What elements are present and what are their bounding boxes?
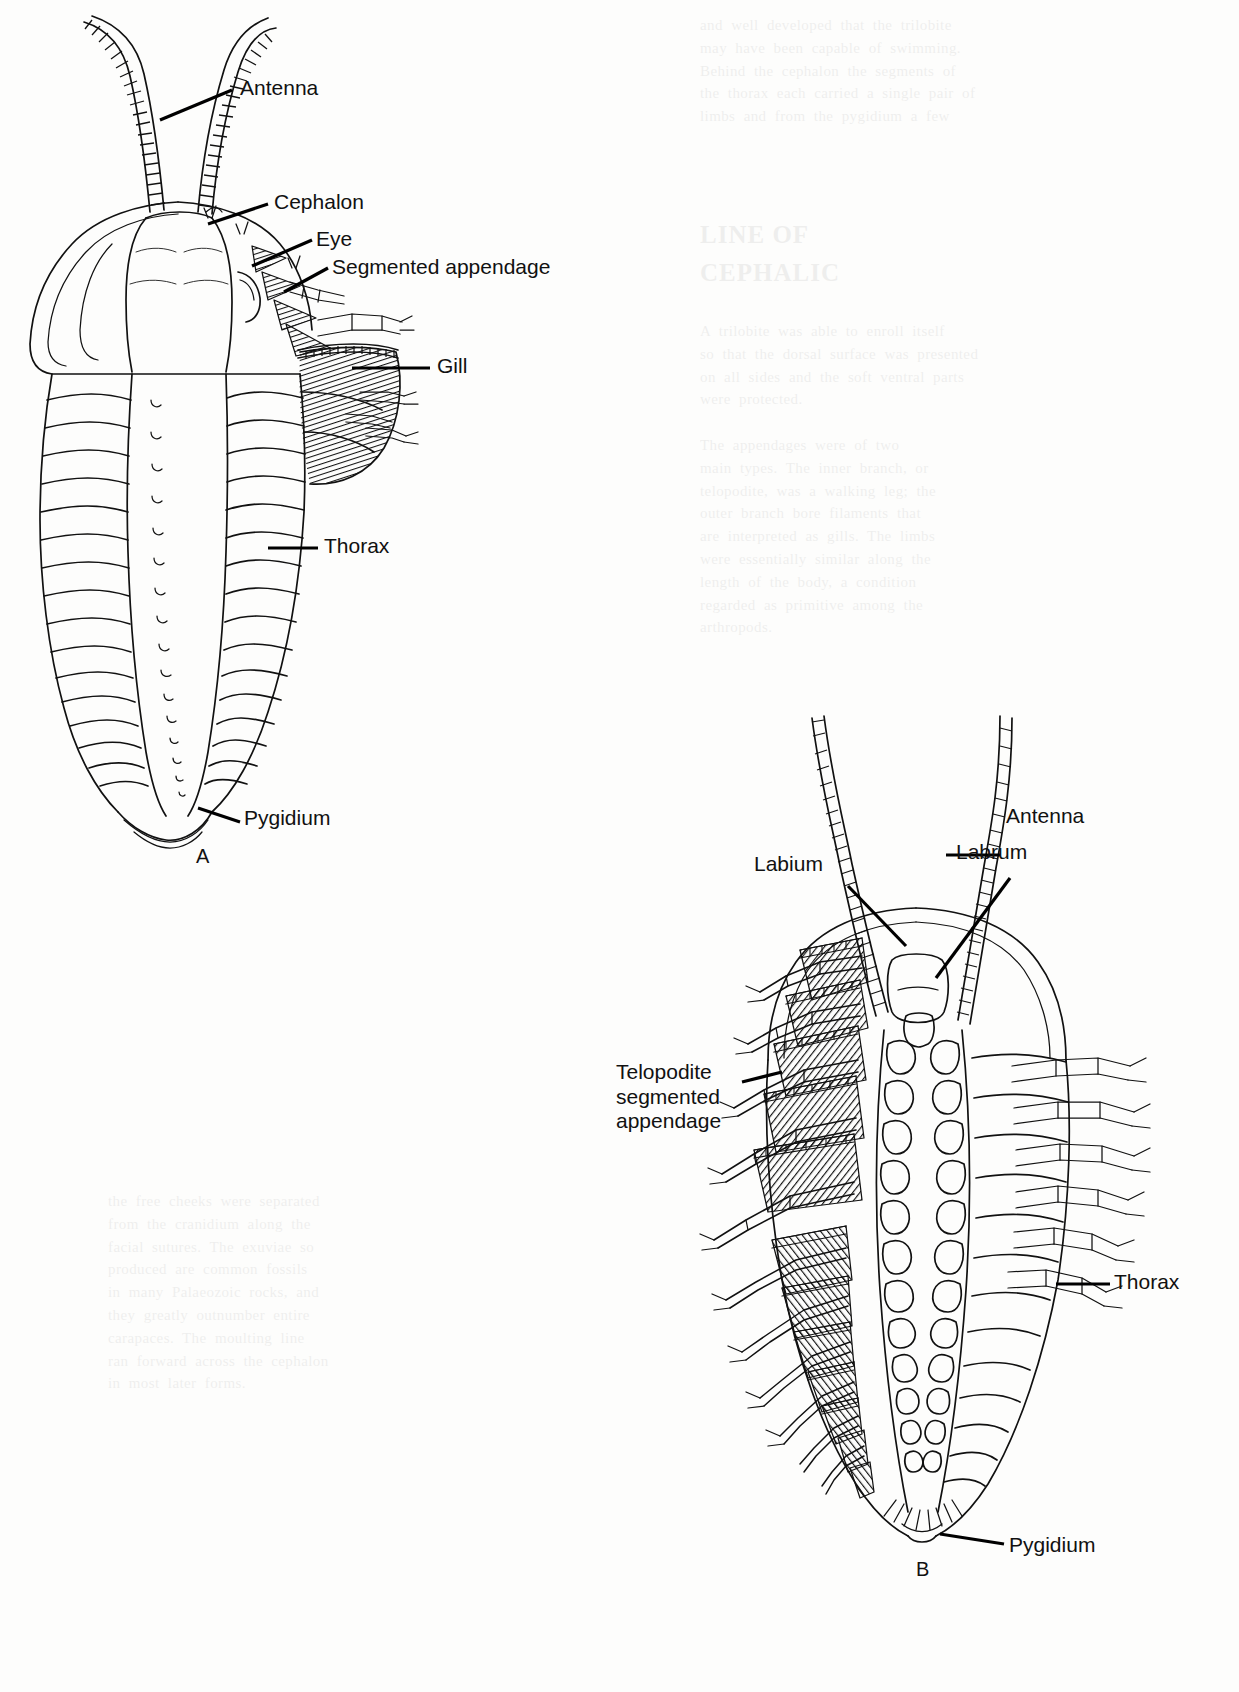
label-antenna-a: Antenna [240,76,318,101]
gill-a [298,314,418,484]
figure-letter-a: A [196,845,209,868]
coxae-column-b [881,1041,966,1472]
labium-metastoma-b [904,1013,934,1047]
figure-letter-b: B [916,1558,929,1581]
label-labrum-b: Labrum [956,840,1027,865]
antenna-right-a [198,18,276,214]
label-antenna-b: Antenna [1006,804,1084,829]
antenna-left-a [84,16,165,212]
label-pygidium-b: Pygidium [1009,1533,1095,1558]
figure-artwork [0,0,1239,1692]
panel-b-artwork [700,716,1150,1544]
label-gill-a: Gill [437,354,467,379]
label-pygidium-a: Pygidium [244,806,330,831]
body-right-b [936,1060,1069,1536]
label-labium-b: Labium [754,852,823,877]
cephalon-outline-a [30,202,300,374]
label-thorax-a: Thorax [324,534,389,559]
glabella-a [126,218,146,372]
pygidium-fringe-b [884,1500,962,1530]
label-telopodite-b: Telopodite segmented appendage [616,1060,721,1134]
antenna-right-b [957,716,1012,1024]
label-eye-a: Eye [316,227,352,252]
axial-rings-a [151,400,185,796]
thorax-segments-a [40,374,305,816]
pygidium-b [908,1536,936,1542]
panel-a-artwork [30,16,430,848]
label-segmented-appendage-a: Segmented appendage [332,255,550,280]
label-cephalon-a: Cephalon [274,190,364,215]
eye-a [238,272,260,322]
label-thorax-b: Thorax [1114,1270,1179,1295]
figure-page: and well developed that the trilobite ma… [0,0,1239,1692]
